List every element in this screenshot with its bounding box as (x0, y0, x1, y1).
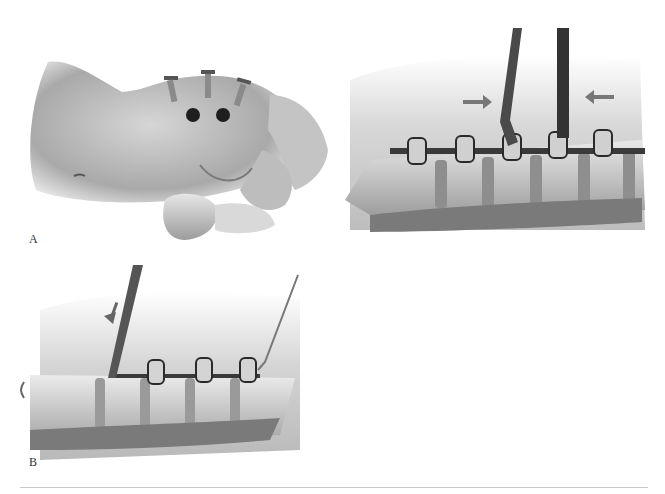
screw-head (456, 136, 474, 162)
portal-incision (216, 108, 230, 122)
figure-divider (20, 487, 648, 488)
screw-head (240, 358, 256, 382)
screw-head (594, 130, 612, 156)
figure-panel-a: A (0, 0, 340, 250)
spine-compression-illustration (330, 0, 665, 250)
figure-panel-c: C (330, 0, 665, 250)
spine-rod-insertion-illustration (0, 250, 340, 480)
figure-panel-b: B (0, 250, 340, 480)
panel-label-b: B (29, 455, 37, 470)
rod (110, 374, 260, 378)
torso-illustration (0, 0, 340, 250)
compressor-instrument (557, 28, 569, 138)
portal-incision (186, 108, 200, 122)
panel-label-a: A (29, 232, 38, 247)
screw-head (148, 360, 164, 384)
screw-head (196, 358, 212, 382)
screw-head (408, 138, 426, 164)
